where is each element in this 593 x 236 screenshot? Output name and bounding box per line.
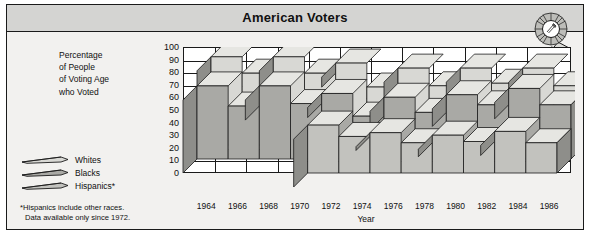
legend-item-label: Hispanics* — [75, 181, 115, 191]
x-axis-tick: 1964 — [197, 201, 216, 211]
legend-item[interactable]: Hispanics* — [21, 179, 161, 192]
chart-legend: WhitesBlacksHispanics* — [21, 153, 161, 192]
footnote-line-1: *Hispanics include other races. — [20, 203, 124, 212]
x-axis-tick: 1968 — [259, 201, 278, 211]
chart-series-layer — [157, 47, 575, 199]
x-axis-title: Year — [157, 214, 575, 224]
y-axis-caption-line: of Voting Age — [59, 73, 154, 85]
series-face — [523, 54, 568, 68]
series-face — [398, 54, 443, 68]
x-axis-tick: 1970 — [290, 201, 309, 211]
legend-item-label: Whites — [75, 155, 101, 165]
chart-plot-area: 0102030405060708090100 — [157, 47, 575, 199]
series-face — [495, 131, 526, 173]
chart-card: American Voters Percentage of People of … — [6, 4, 584, 230]
x-axis-tick: 1982 — [477, 201, 496, 211]
y-axis-caption-line: Percentage — [59, 49, 154, 61]
page-title: American Voters — [7, 10, 583, 25]
series-face — [526, 143, 557, 173]
series-face — [339, 136, 370, 173]
ribbon-swatch-icon — [21, 181, 69, 190]
series-face — [228, 106, 259, 159]
series-face — [308, 125, 339, 173]
legend-item[interactable]: Blacks — [21, 166, 161, 179]
series-face — [336, 49, 381, 63]
title-bar: American Voters — [7, 5, 583, 32]
series-face — [432, 135, 463, 173]
x-axis-tick: 1980 — [446, 201, 465, 211]
x-axis-tick: 1978 — [415, 201, 434, 211]
x-axis-tick: 1974 — [353, 201, 372, 211]
y-axis-caption: Percentage of People of Voting Age who V… — [59, 49, 154, 98]
x-axis-tick-labels: 1964196619681970197219741976197819801982… — [157, 201, 575, 213]
series-face — [554, 72, 575, 86]
series-face — [259, 86, 290, 159]
series-face — [460, 54, 505, 68]
y-axis-caption-line: who Voted — [59, 86, 154, 98]
series-face — [370, 133, 401, 173]
series-face — [211, 47, 256, 57]
x-axis-tick: 1984 — [508, 201, 527, 211]
x-axis-tick: 1966 — [228, 201, 247, 211]
x-axis-tick: 1986 — [540, 201, 559, 211]
series-face — [273, 47, 318, 57]
x-axis-tick: 1972 — [321, 201, 340, 211]
ribbon-swatch-icon — [21, 168, 69, 177]
legend-item[interactable]: Whites — [21, 153, 161, 166]
series-face — [197, 86, 228, 159]
y-axis-caption-line: of People — [59, 61, 154, 73]
legend-item-label: Blacks — [75, 168, 100, 178]
x-axis-tick: 1976 — [384, 201, 403, 211]
ribbon-swatch-icon — [21, 155, 69, 164]
series-face — [183, 86, 197, 173]
